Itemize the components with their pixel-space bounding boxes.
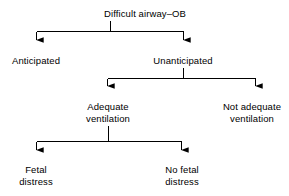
flowchart-diagram: Difficult airway–OB Anticipated Unantici…	[0, 0, 289, 196]
node-not-adequate-ventilation: Not adequate ventilation	[223, 101, 281, 124]
node-anticipated-line-1: Anticipated	[12, 55, 60, 67]
node-fetal-distress-line-2: distress	[19, 176, 53, 188]
node-no-fetal-distress-line-2: distress	[165, 176, 199, 188]
node-unanticipated: Unanticipated	[153, 55, 212, 67]
node-anticipated: Anticipated	[12, 55, 60, 67]
node-adequate-ventilation-line-2: ventilation	[86, 113, 130, 125]
node-unanticipated-line-1: Unanticipated	[153, 55, 212, 67]
node-fetal-distress-line-1: Fetal	[19, 164, 53, 176]
node-root-line-1: Difficult airway–OB	[104, 8, 186, 20]
node-no-fetal-distress: No fetal distress	[165, 164, 199, 187]
node-adequate-ventilation-line-1: Adequate	[86, 101, 130, 113]
node-adequate-ventilation: Adequate ventilation	[86, 101, 130, 124]
node-not-adequate-ventilation-line-1: Not adequate	[223, 101, 281, 113]
node-fetal-distress: Fetal distress	[19, 164, 53, 187]
node-not-adequate-ventilation-line-2: ventilation	[223, 113, 281, 125]
node-no-fetal-distress-line-1: No fetal	[165, 164, 199, 176]
node-root: Difficult airway–OB	[104, 8, 186, 20]
